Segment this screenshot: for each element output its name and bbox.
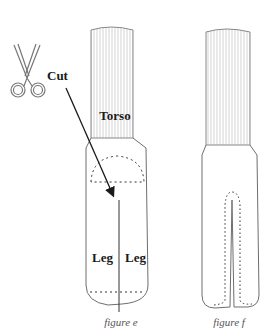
cut-label: Cut: [47, 68, 69, 83]
torso-section: [206, 29, 250, 145]
figure-f-caption: figure f: [213, 316, 247, 328]
scissors-icon: [11, 44, 45, 97]
torso-label: Torso: [99, 108, 130, 123]
leg-section: [86, 138, 148, 305]
diagram-canvas: Cut Torso Leg Leg figure e figure f: [0, 0, 272, 335]
figure-e: Torso Leg Leg figure e: [86, 27, 148, 328]
leg-split-outline: [202, 145, 259, 308]
dashed-crotch-curve: [91, 156, 144, 182]
leg-label-left: Leg: [92, 250, 113, 265]
figure-e-caption: figure e: [104, 316, 138, 328]
figure-f: figure f: [202, 29, 259, 328]
leg-label-right: Leg: [125, 250, 146, 265]
